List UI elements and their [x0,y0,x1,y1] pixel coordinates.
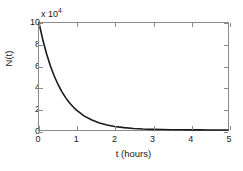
x-tick-mark [154,23,155,27]
x-tick-mark [39,126,40,130]
y-tick-mark [224,110,228,111]
x-tick-label: 5 [226,134,231,144]
y-tick-mark [39,23,43,24]
x-tick-mark [115,23,116,27]
x-tick-mark [115,126,116,130]
multiplier-base: x 10 [41,9,58,19]
x-tick-mark [77,23,78,27]
x-tick-mark [192,23,193,27]
decay-curve-svg [39,23,228,130]
y-tick-mark [39,132,43,133]
multiplier-exponent: 4 [58,7,62,14]
y-tick-mark [39,67,43,68]
y-tick-mark [39,45,43,46]
x-tick-mark [230,126,231,130]
x-axis-title: t (hours) [38,148,229,159]
x-tick-label: 0 [35,134,40,144]
y-tick-mark [224,23,228,24]
decay-curve-line [39,23,228,130]
x-tick-mark [192,126,193,130]
x-tick-label: 2 [112,134,117,144]
y-tick-mark [39,88,43,89]
x-tick-label: 3 [150,134,155,144]
y-tick-mark [39,110,43,111]
plot-area [38,22,229,131]
y-axis-title: N(t) [3,35,14,83]
y-tick-mark [224,67,228,68]
x-tick-mark [77,126,78,130]
y-axis-multiplier-label: x 104 [41,7,62,19]
x-tick-label: 4 [188,134,193,144]
figure-canvas: x 104 N(t) t (hours) 0246810 012345 [0,0,243,171]
y-tick-mark [224,45,228,46]
x-tick-label: 1 [74,134,79,144]
x-tick-mark [230,23,231,27]
y-tick-mark [224,88,228,89]
x-tick-mark [154,126,155,130]
y-tick-mark [224,132,228,133]
